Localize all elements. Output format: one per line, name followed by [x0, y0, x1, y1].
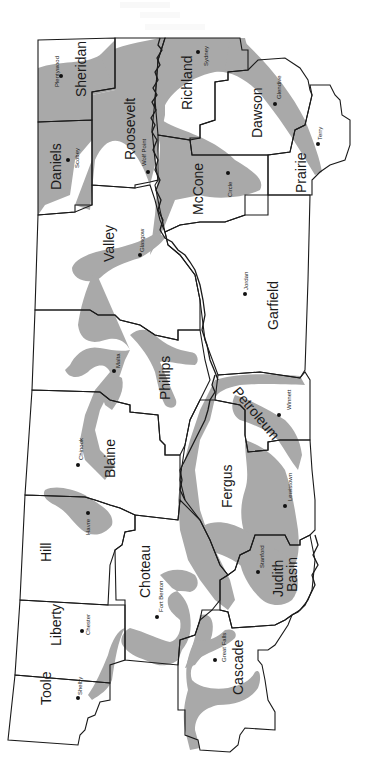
label-jordan: Jordan — [243, 272, 249, 290]
town-dot-winnett — [277, 413, 281, 417]
town-dot-circle — [226, 171, 230, 175]
town-dot-glasgow — [138, 253, 142, 257]
label-daniels: Daniels — [48, 143, 64, 190]
label-glasgow: Glasgow — [139, 228, 145, 252]
town-dot-sydney — [196, 50, 200, 54]
label-shelby: Shelby — [77, 677, 83, 695]
label-wolf-point: Wolf Point — [141, 138, 147, 166]
label-glendive: Glendive — [276, 75, 282, 99]
label-richland: Richland — [179, 56, 195, 110]
town-dot-lewistown — [283, 504, 287, 508]
town-dot-terry — [316, 142, 320, 146]
town-dot-chinook — [76, 463, 80, 467]
label-roosevelt: Roosevelt — [122, 98, 138, 160]
label-terry: Terry — [317, 127, 323, 140]
label-great-falls: Great Falls — [221, 633, 227, 662]
label-havre: Havre — [85, 518, 91, 535]
label-liberty: Liberty — [48, 604, 64, 646]
label-chinook: Chinook — [78, 437, 84, 460]
label-scobey: Scobey — [74, 148, 80, 168]
town-dot-chester — [80, 629, 84, 633]
label-sydney: Sydney — [203, 46, 209, 66]
label-toole: Toole — [38, 671, 54, 705]
label-dawson: Dawson — [249, 87, 265, 138]
town-dot-shelby — [76, 696, 80, 700]
town-dot-stanford — [256, 570, 260, 574]
label-judith-basin: Judith Basin — [270, 557, 300, 597]
town-dot-havre — [86, 511, 90, 515]
county-garfield-border — [165, 195, 310, 378]
label-lewistown: Lewistown — [287, 473, 293, 501]
label-hill: Hill — [38, 543, 54, 562]
town-dot-scobey — [66, 158, 70, 162]
label-chester: Chester — [85, 614, 91, 635]
label-phillips: Phillips — [157, 356, 173, 400]
label-sheridan: Sheridan — [73, 41, 89, 97]
label-fort-benton: Fort Benton — [158, 581, 164, 612]
town-dot-malta — [112, 369, 116, 373]
town-dot-jordan — [243, 292, 247, 296]
label-cascade: Cascade — [230, 640, 246, 695]
label-choteau: Choteau — [137, 545, 153, 598]
label-winnett: Winnett — [286, 389, 292, 410]
svg-text:Basin: Basin — [284, 557, 300, 592]
label-garfield: Garfield — [265, 281, 281, 330]
montana-county-map: Sheridan Roosevelt Richland Daniels Daws… — [0, 0, 368, 766]
map-svg: Sheridan Roosevelt Richland Daniels Daws… — [0, 0, 368, 766]
label-stanford: Stanford — [259, 545, 265, 568]
faint-header-artifact — [120, 2, 205, 30]
label-circle: Circle — [227, 181, 233, 197]
town-dot-fort-benton — [155, 615, 159, 619]
label-mccone: McCone — [190, 163, 206, 215]
label-prairie: Prairie — [293, 152, 309, 193]
town-dot-glendive — [273, 102, 277, 106]
label-fergus: Fergus — [219, 464, 235, 508]
town-dot-wolf-point — [146, 170, 150, 174]
label-blaine: Blaine — [102, 439, 118, 478]
town-dot-great-falls — [213, 658, 217, 662]
label-valley: Valley — [101, 225, 117, 262]
label-malta: Malta — [115, 353, 121, 368]
label-plentywood: Plentywood — [54, 56, 60, 87]
